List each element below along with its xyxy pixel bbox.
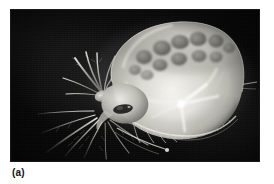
daphnia-specimen-illustration [11,10,259,161]
figure-caption-label: (a) [12,167,25,179]
soft-focus-haze [91,22,251,138]
figure-panel: (a) [0,0,274,184]
specimen-photograph [11,10,259,161]
filament-tip-highlight [165,148,169,152]
